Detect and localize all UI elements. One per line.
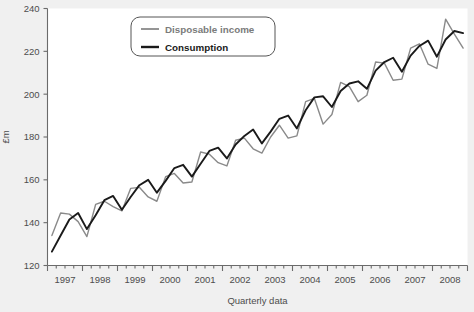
x-tick-label: 2005 [334,274,355,285]
x-tick-label: 2004 [299,274,320,285]
chart-legend[interactable]: Disposable incomeConsumption [131,17,275,56]
x-tick-label: 2006 [369,274,390,285]
y-axis-title: £m [0,130,11,143]
legend-label-disposable-income[interactable]: Disposable income [165,24,255,35]
x-tick-label: 2007 [404,274,425,285]
x-tick-label: 2002 [229,274,250,285]
y-tick-label: 220 [24,46,40,57]
y-tick-label: 120 [24,260,40,271]
x-tick-label: 2003 [264,274,285,285]
x-axis-title: Quarterly data [227,295,288,306]
y-tick-label: 180 [24,131,40,142]
line-chart: 120140160180200220240 199719981999200020… [0,0,474,312]
y-tick-label: 240 [24,3,40,14]
x-tick-label: 1997 [54,274,75,285]
chart-container: 120140160180200220240 199719981999200020… [0,0,474,312]
legend-label-consumption[interactable]: Consumption [165,42,228,53]
x-tick-label: 2008 [439,274,460,285]
x-tick-label: 2000 [159,274,180,285]
y-tick-label: 140 [24,217,40,228]
y-tick-label: 160 [24,174,40,185]
y-tick-label: 200 [24,89,40,100]
x-tick-label: 1998 [89,274,110,285]
x-tick-label: 1999 [124,274,145,285]
x-tick-label: 2001 [194,274,215,285]
